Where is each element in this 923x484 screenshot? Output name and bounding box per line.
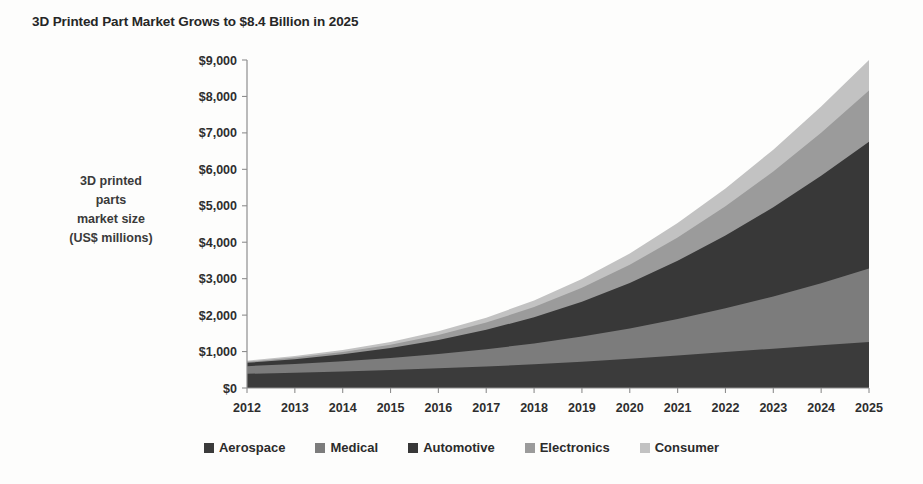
legend-swatch-icon [640, 443, 650, 453]
legend-label: Electronics [540, 440, 610, 455]
y-tick-label: $7,000 [199, 126, 237, 140]
x-tick-label: 2016 [424, 401, 452, 415]
x-tick-label: 2022 [712, 401, 740, 415]
y-tick-label: $3,000 [199, 272, 237, 286]
legend-item-electronics[interactable]: Electronics [525, 440, 610, 455]
y-tick-label: $1,000 [199, 345, 237, 359]
x-tick-label: 2023 [759, 401, 787, 415]
x-tick-label: 2018 [520, 401, 548, 415]
y-tick-label: $0 [223, 382, 237, 396]
x-axis-ticks: 2012201320142015201620172018201920202021… [233, 388, 883, 415]
x-tick-label: 2025 [855, 401, 883, 415]
chart-legend: AerospaceMedicalAutomotiveElectronicsCon… [0, 440, 923, 455]
legend-item-consumer[interactable]: Consumer [640, 440, 719, 455]
legend-label: Automotive [423, 440, 495, 455]
chart-figure: 3D Printed Part Market Grows to $8.4 Bil… [0, 0, 923, 484]
y-tick-label: $8,000 [199, 90, 237, 104]
legend-item-medical[interactable]: Medical [315, 440, 378, 455]
x-tick-label: 2020 [616, 401, 644, 415]
y-tick-label: $2,000 [199, 309, 237, 323]
x-tick-label: 2012 [233, 401, 261, 415]
y-axis-ticks: $0$1,000$2,000$3,000$4,000$5,000$6,000$7… [199, 54, 247, 396]
x-tick-label: 2019 [568, 401, 596, 415]
x-tick-label: 2015 [377, 401, 405, 415]
y-tick-label: $5,000 [199, 199, 237, 213]
legend-item-aerospace[interactable]: Aerospace [204, 440, 285, 455]
legend-swatch-icon [408, 443, 418, 453]
stacked-area-chart: $0$1,000$2,000$3,000$4,000$5,000$6,000$7… [0, 0, 923, 484]
legend-label: Consumer [655, 440, 719, 455]
legend-label: Aerospace [219, 440, 285, 455]
y-tick-label: $6,000 [199, 163, 237, 177]
y-tick-label: $9,000 [199, 54, 237, 68]
legend-swatch-icon [204, 443, 214, 453]
legend-label: Medical [330, 440, 378, 455]
legend-swatch-icon [525, 443, 535, 453]
x-tick-label: 2014 [329, 401, 357, 415]
y-tick-label: $4,000 [199, 236, 237, 250]
area-series-group [247, 60, 869, 388]
x-tick-label: 2024 [807, 401, 835, 415]
x-tick-label: 2013 [281, 401, 309, 415]
legend-swatch-icon [315, 443, 325, 453]
legend-item-automotive[interactable]: Automotive [408, 440, 495, 455]
x-tick-label: 2021 [664, 401, 692, 415]
x-tick-label: 2017 [472, 401, 500, 415]
